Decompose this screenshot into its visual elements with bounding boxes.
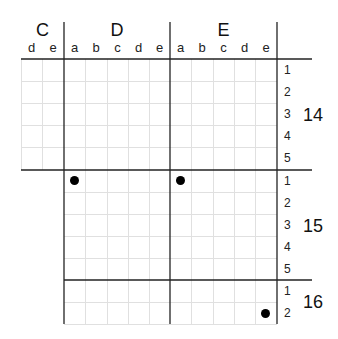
column-header-D: D (64, 21, 170, 39)
subcolumn-E-d: d (234, 41, 255, 54)
dot-E-e-16-2 (261, 309, 270, 318)
dot-E-a-15-1 (176, 176, 185, 185)
column-header-E: E (170, 21, 277, 39)
row-14-1: 1 (284, 64, 291, 76)
row-14-3: 3 (284, 108, 291, 120)
row-16-2: 2 (284, 307, 291, 319)
row-15-4: 4 (284, 241, 291, 253)
row-15-3: 3 (284, 219, 291, 231)
row-15-2: 2 (284, 197, 291, 209)
row-15-5: 5 (284, 263, 291, 275)
subcolumn-D-d: d (128, 41, 149, 54)
subcolumn-E-a: a (170, 41, 191, 54)
row-15-1: 1 (284, 175, 291, 187)
subcolumn-C-d: d (21, 41, 42, 54)
subcolumn-D-a: a (64, 41, 85, 54)
row-header-14: 14 (303, 106, 323, 124)
row-header-16: 16 (303, 293, 323, 311)
row-14-2: 2 (284, 86, 291, 98)
row-14-4: 4 (284, 130, 291, 142)
row-16-1: 1 (284, 285, 291, 297)
column-header-C: C (21, 21, 64, 39)
row-header-15: 15 (303, 217, 323, 235)
subcolumn-D-e: e (149, 41, 170, 54)
subcolumn-E-b: b (191, 41, 213, 54)
subcolumn-E-c: c (213, 41, 234, 54)
subcolumn-D-c: c (107, 41, 128, 54)
row-14-5: 5 (284, 152, 291, 164)
subcolumn-D-b: b (85, 41, 107, 54)
subcolumn-C-e: e (42, 41, 64, 54)
dot-D-a-15-1 (70, 176, 79, 185)
subcolumn-E-e: e (255, 41, 277, 54)
